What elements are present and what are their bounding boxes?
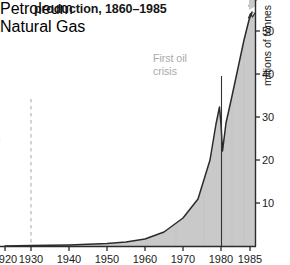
annotation-first-oil-crisis: First oil crisis xyxy=(153,52,187,77)
x-tick-label-1950: 1950 xyxy=(91,253,123,265)
annotation-oil-crisis-line1: First oil xyxy=(153,52,187,65)
x-tick-label-1970: 1970 xyxy=(167,253,199,265)
annotation-oil-crisis-line2: crisis xyxy=(153,65,187,78)
x-tick-label-1940: 1940 xyxy=(53,253,85,265)
x-tick-label-1930: 1930 xyxy=(15,253,47,265)
x-tick-label-1980: 1980 xyxy=(205,253,237,265)
area-fill-production xyxy=(5,12,255,246)
clipped-text-fragment: ) xyxy=(0,132,1,144)
y-axis-title: millions of tonnes xyxy=(261,0,273,86)
chart-root: production, 1860–1985 xyxy=(0,0,290,265)
x-tick-label-1985: 1985 xyxy=(234,253,266,265)
y-tick-label-20: 20 xyxy=(262,154,274,166)
y-tick-label-30: 30 xyxy=(262,111,274,123)
chart-plot-area xyxy=(0,0,290,265)
x-tick-label-1960: 1960 xyxy=(129,253,161,265)
y-tick-label-10: 10 xyxy=(262,197,274,209)
